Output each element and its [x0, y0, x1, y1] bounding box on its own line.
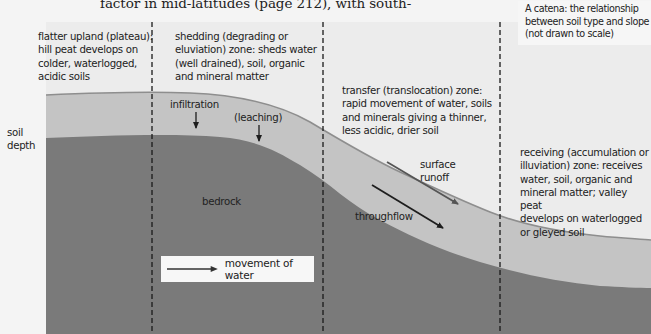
leaching-label: (leaching): [234, 111, 282, 124]
caption-line-1: A catena: the relationship: [525, 3, 651, 16]
figure-caption: A catena: the relationship between soil …: [518, 1, 651, 45]
legend: movement of water: [161, 256, 314, 282]
zone-flatter-upland-label: flatter upland (plateau): hill peat deve…: [38, 30, 153, 83]
legend-arrow-icon: [167, 265, 219, 273]
bedrock-label: bedrock: [202, 195, 241, 208]
caption-line-3: (not drawn to scale): [525, 28, 651, 41]
zone-receiving-label: receiving (accumulation or illuviation) …: [520, 146, 651, 239]
infiltration-label: infiltration: [170, 98, 219, 111]
soil-depth-label: soil depth: [7, 126, 35, 153]
zone-transfer-label: transfer (translocation) zone: rapid mov…: [342, 84, 492, 137]
caption-line-2: between soil type and slope: [525, 16, 651, 29]
throughflow-label: throughflow: [355, 210, 413, 223]
zone-shedding-label: shedding (degrading or eluviation) zone:…: [175, 30, 317, 83]
legend-label: movement of water: [225, 257, 314, 281]
surface-runoff-label: surface runoff: [420, 158, 456, 185]
